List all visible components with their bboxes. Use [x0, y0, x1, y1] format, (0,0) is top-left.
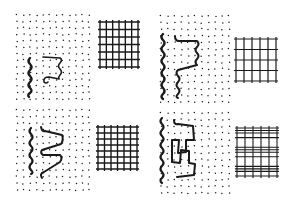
- grid: [96, 125, 139, 171]
- panel-top-right: [160, 15, 278, 104]
- wavy-line-1: [162, 34, 165, 99]
- panel-bottom-right: [160, 112, 279, 195]
- panel-top-left: [16, 14, 140, 101]
- wavy-line-2: [41, 127, 63, 178]
- wavy-line-1: [28, 58, 31, 97]
- grid: [234, 37, 278, 83]
- dot-field: [160, 15, 231, 104]
- grid: [98, 20, 140, 69]
- panel-bottom-left: [16, 109, 139, 192]
- wavy-line-2: [172, 120, 195, 177]
- diagram-canvas: [0, 0, 293, 206]
- grid: [235, 126, 279, 178]
- wavy-line-2: [43, 57, 62, 83]
- wavy-line-1: [30, 128, 33, 174]
- dot-field: [16, 109, 91, 192]
- dot-field: [160, 112, 231, 195]
